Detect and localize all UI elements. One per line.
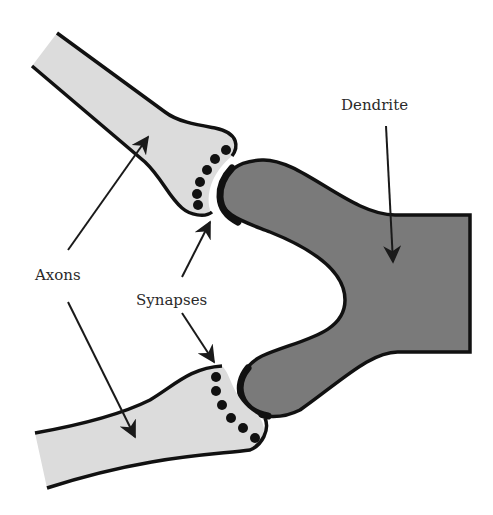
neuron-diagram: Dendrite Axons Synapses — [0, 0, 493, 515]
axons-label: Axons — [35, 266, 81, 284]
dendrite-shape — [220, 160, 470, 417]
arrow-axons-to-top-axon — [68, 137, 148, 250]
dendrite-label: Dendrite — [341, 96, 408, 114]
arrow-synapses-to-top — [182, 222, 210, 277]
axon-bottom-shape — [35, 366, 267, 488]
diagram-canvas — [0, 0, 493, 515]
synapses-label: Synapses — [136, 291, 207, 309]
arrow-synapses-to-bottom — [182, 313, 214, 362]
axon-top-shape — [32, 33, 236, 216]
